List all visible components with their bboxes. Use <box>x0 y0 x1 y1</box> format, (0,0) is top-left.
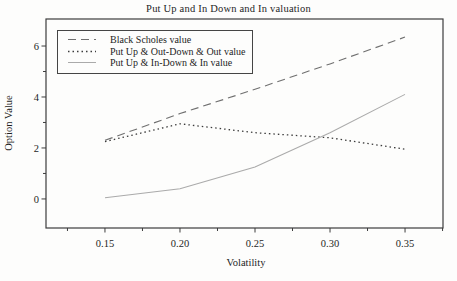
legend-line-sample <box>67 58 97 67</box>
legend-label: Put Up & In-Down & In value <box>110 57 232 69</box>
y-tick-label: 6 <box>34 41 39 52</box>
legend-item: Black Scholes value <box>67 34 248 46</box>
x-tick-label: 0.15 <box>96 238 114 249</box>
legend-item: Put Up & Out-Down & Out value <box>67 46 248 58</box>
legend-line-sample <box>67 47 97 56</box>
x-axis-label: Volatility <box>227 257 267 268</box>
chart-title: Put Up and In Down and In valuation <box>0 3 457 14</box>
y-tick-label: 4 <box>34 92 40 103</box>
legend-label: Black Scholes value <box>110 34 191 46</box>
legend-label: Put Up & Out-Down & Out value <box>110 46 246 58</box>
legend-line-sample <box>67 35 97 44</box>
y-axis-label: Option Value <box>3 95 14 151</box>
y-tick-label: 2 <box>34 143 39 154</box>
x-tick-label: 0.35 <box>396 238 414 249</box>
x-tick-label: 0.30 <box>321 238 339 249</box>
series-line-put-up-out-down-out-value <box>105 124 405 149</box>
y-tick-label: 0 <box>34 194 39 205</box>
legend-box: Black Scholes value Put Up & Out-Down & … <box>57 30 253 74</box>
x-tick-label: 0.20 <box>171 238 189 249</box>
series-line-put-up-in-down-in-value <box>105 94 405 197</box>
option-valuation-chart: Option Value Volatility 0.150.200.250.30… <box>0 0 457 281</box>
legend-item: Put Up & In-Down & In value <box>67 57 248 69</box>
x-tick-label: 0.25 <box>246 238 264 249</box>
